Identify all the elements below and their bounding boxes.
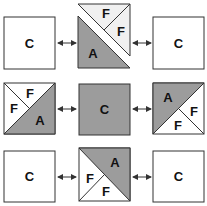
- label-f: F: [102, 6, 110, 21]
- square-top-left: C: [4, 17, 55, 69]
- square-bottom-right: C: [153, 151, 204, 202]
- label-a: A: [110, 155, 120, 170]
- label-f: F: [86, 171, 94, 186]
- label-a: A: [88, 46, 98, 61]
- label-f: F: [117, 24, 125, 39]
- label-c: C: [25, 169, 35, 184]
- label-f: F: [102, 184, 110, 199]
- label-f: F: [26, 86, 34, 101]
- square-bottom-left: C: [4, 151, 55, 202]
- square-middle-right: A F F: [153, 83, 204, 134]
- label-c: C: [174, 169, 184, 184]
- label-f: F: [174, 118, 182, 133]
- tile-diagram: C F F A C F F A C A F F C: [0, 0, 207, 206]
- label-c: C: [174, 36, 184, 51]
- label-a: A: [35, 113, 45, 128]
- label-c: C: [25, 36, 35, 51]
- square-top-right: C: [153, 17, 204, 69]
- label-f: F: [10, 101, 18, 116]
- label-f: F: [190, 104, 198, 119]
- label-c: C: [100, 102, 110, 117]
- square-middle-center: C: [79, 84, 130, 135]
- square-middle-left: F F A: [4, 83, 55, 134]
- label-a: A: [163, 90, 173, 105]
- square-bottom-center: A F F: [79, 148, 130, 201]
- square-top-center-split: F F A: [78, 4, 130, 68]
